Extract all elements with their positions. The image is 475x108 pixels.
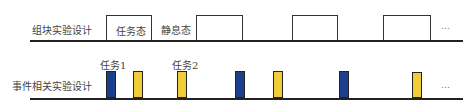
block-design-label: 组块实验设计: [32, 22, 92, 37]
block-timeline-axis: [30, 40, 463, 42]
block-ellipsis: …: [441, 21, 451, 31]
task1-event-bar: [339, 71, 349, 98]
event-ellipsis: …: [441, 80, 451, 90]
event-timeline-axis: [30, 98, 463, 100]
block-task-pulse-4: [383, 15, 431, 41]
task2-event-bar: [133, 71, 143, 98]
task1-event-bar: [106, 71, 116, 98]
task2-label: 任务2: [172, 57, 198, 72]
rest-state-label: 静息态: [161, 22, 191, 37]
block-task-pulse-1: 任务态: [106, 15, 152, 41]
task-state-label: 任务态: [116, 23, 146, 38]
event-design-label: 事件相关实验设计: [12, 78, 92, 93]
task2-event-bar: [412, 72, 422, 98]
task2-event-bar: [273, 71, 283, 98]
task1-event-bar: [235, 71, 245, 98]
block-task-pulse-2: [196, 15, 243, 41]
task2-event-bar: [177, 71, 187, 98]
block-task-pulse-3: [292, 15, 338, 41]
task1-label: 任务1: [100, 57, 126, 72]
